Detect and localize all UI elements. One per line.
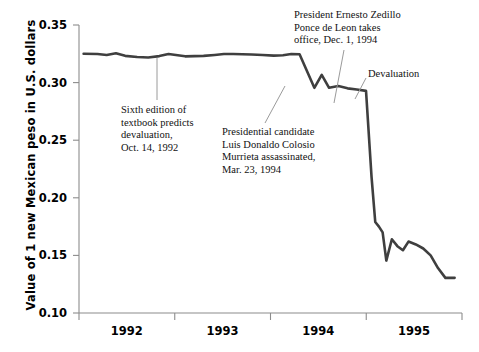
x-tick-label: 1995 [384, 324, 444, 338]
chart-container: Value of 1 new Mexican peso in U.S. doll… [0, 0, 479, 352]
y-tick-label: 0.15 [23, 248, 67, 262]
x-tick-label: 1993 [193, 324, 253, 338]
annotation-zedillo-inauguration: President Ernesto ZedilloPonce de Leon t… [294, 9, 401, 47]
y-tick-label: 0.30 [23, 76, 67, 90]
x-tick-label: 1992 [97, 324, 157, 338]
annotation-line: devaluation, [121, 129, 194, 142]
annotation-line: Presidential candidate [222, 126, 315, 139]
annotation-line: Luis Donaldo Colosio [222, 139, 315, 152]
annotation-line: Murrieta assassinated, [222, 151, 315, 164]
annotation-line: Devaluation [368, 68, 419, 81]
annotation-devaluation: Devaluation [368, 68, 419, 81]
annotation-textbook-prediction: Sixth edition oftextbook predictsdevalua… [121, 104, 194, 154]
y-tick-label: 0.35 [23, 18, 67, 32]
annotation-colosio-assassination: Presidential candidateLuis Donaldo Colos… [222, 126, 315, 176]
annotation-line: President Ernesto Zedillo [294, 9, 401, 22]
y-tick-label: 0.25 [23, 133, 67, 147]
annotation-line: Ponce de Leon takes [294, 22, 401, 35]
annotation-line: office, Dec. 1, 1994 [294, 34, 401, 47]
y-tick-label: 0.20 [23, 191, 67, 205]
x-tick-label: 1994 [288, 324, 348, 338]
y-tick-label: 0.10 [23, 306, 67, 320]
annotation-line: textbook predicts [121, 117, 194, 130]
annotation-line: Sixth edition of [121, 104, 194, 117]
annotation-line: Mar. 23, 1994 [222, 164, 315, 177]
annotation-line: Oct. 14, 1992 [121, 142, 194, 155]
